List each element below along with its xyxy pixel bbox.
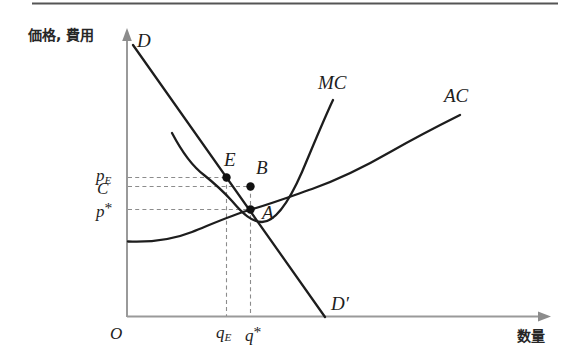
average-cost-curve xyxy=(128,115,460,242)
demand-end-label: D′ xyxy=(331,294,349,313)
x-tick-qstar-base: q xyxy=(245,326,254,345)
economics-figure: 価格, 費用 数量 O D D′ MC AC E B A pE C p* qE … xyxy=(0,0,585,363)
marginal-cost-label: MC xyxy=(318,73,347,92)
point-E xyxy=(222,173,230,181)
average-cost-label: AC xyxy=(444,86,468,105)
x-tick-qE-sub: E xyxy=(225,331,232,343)
y-tick-pstar-star: * xyxy=(105,199,113,216)
x-tick-qstar: q* xyxy=(245,324,261,344)
point-label-A: A xyxy=(262,203,274,222)
point-label-E: E xyxy=(224,150,236,169)
y-tick-C: C xyxy=(97,180,108,197)
y-axis xyxy=(122,28,132,317)
x-tick-qstar-star: * xyxy=(254,323,262,340)
point-label-B: B xyxy=(256,158,268,177)
y-tick-pstar-base: p xyxy=(96,202,105,221)
x-axis-label: 数量 xyxy=(517,329,545,343)
demand-curve xyxy=(133,45,325,317)
figure-svg xyxy=(0,0,585,363)
point-A xyxy=(246,205,254,213)
y-axis-label: 価格, 費用 xyxy=(28,28,94,42)
y-tick-pstar: p* xyxy=(96,200,112,220)
point-B xyxy=(246,182,254,190)
guide-lines-horizontal xyxy=(128,178,251,210)
origin-label: O xyxy=(110,325,122,342)
y-tick-C-base: C xyxy=(97,179,108,198)
marginal-cost-curve xyxy=(172,100,333,222)
x-tick-qE-base: q xyxy=(216,323,225,342)
x-tick-qE: qE xyxy=(216,324,231,343)
demand-start-label: D xyxy=(137,31,151,50)
